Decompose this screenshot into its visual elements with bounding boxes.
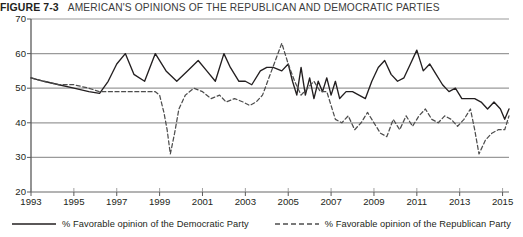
figure-title-text: AMERICAN'S OPINIONS OF THE REPUBLICAN AN…	[68, 2, 440, 13]
x-axis-tick-label: 2013	[449, 196, 470, 207]
y-axis-tick-label: 30	[15, 152, 26, 162]
x-axis-tick-label: 1997	[106, 196, 127, 207]
legend-item-republican: % Favorable opinion of the Republican Pa…	[275, 219, 511, 229]
chart-legend: % Favorable opinion of the Democratic Pa…	[0, 214, 523, 234]
y-axis-labels: 203040506070	[0, 14, 30, 198]
gridlines-group	[31, 19, 509, 192]
x-axis-tick-label: 2011	[407, 196, 428, 207]
x-axis-tick-label: 1995	[63, 196, 84, 207]
x-axis-labels: 1993199519971999200120032005200720092011…	[0, 196, 523, 210]
x-axis-tick-label: 2005	[278, 196, 299, 207]
figure-number-label: FIGURE 7-3	[0, 1, 59, 13]
x-axis-tick-label: 1993	[20, 196, 41, 207]
y-axis-tick-label: 60	[15, 49, 26, 59]
x-axis-tick-label: 2009	[363, 196, 384, 207]
x-axis-tick-label: 1999	[149, 196, 170, 207]
legend-item-democratic: % Favorable opinion of the Democratic Pa…	[12, 219, 249, 229]
x-axis-tick-label: 2015	[492, 196, 513, 207]
x-axis-tick-label: 2003	[235, 196, 256, 207]
y-axis-tick-label: 70	[15, 14, 26, 24]
x-axis-tick-label: 2001	[192, 196, 213, 207]
series-group	[31, 43, 509, 154]
y-axis-tick-label: 50	[15, 83, 26, 93]
legend-label-republican: % Favorable opinion of the Republican Pa…	[325, 219, 511, 229]
x-axis-tick-label: 2007	[320, 196, 341, 207]
line-chart-svg	[0, 14, 523, 198]
figure-container: FIGURE 7-3AMERICAN'S OPINIONS OF THE REP…	[0, 0, 523, 237]
x-tickmarks-group	[27, 19, 503, 196]
series-line-republican	[31, 43, 509, 154]
legend-label-democratic: % Favorable opinion of the Democratic Pa…	[62, 219, 249, 229]
legend-line-solid-icon	[12, 220, 56, 228]
series-line-democratic	[31, 50, 509, 119]
plot-area	[0, 14, 523, 198]
legend-line-dashed-icon	[275, 220, 319, 228]
y-axis-tick-label: 40	[15, 118, 26, 128]
figure-title-bar: FIGURE 7-3AMERICAN'S OPINIONS OF THE REP…	[0, 0, 523, 13]
